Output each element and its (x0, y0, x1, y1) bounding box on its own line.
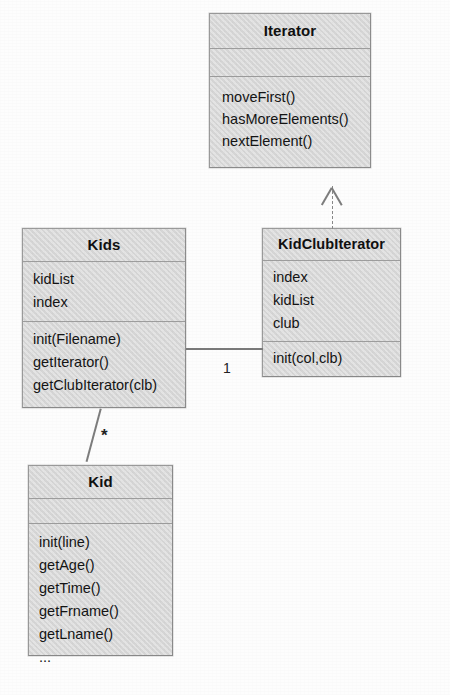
class-box-kid[interactable]: Kid init(line) getAge() getTime() getFrn… (28, 465, 173, 656)
attribute-item: kidList (273, 289, 400, 312)
class-box-kidclubiterator[interactable]: KidClubIterator index kidList club init(… (262, 228, 401, 377)
operation-item: getTime() (39, 577, 172, 600)
operation-item: getIterator() (33, 351, 185, 374)
uml-class-diagram-canvas: Iterator moveFirst() hasMoreElements() n… (0, 0, 450, 695)
operations-compartment-kidclubiterator: init(col,clb) (263, 341, 400, 370)
operation-item: getFrname() (39, 600, 172, 623)
multiplicity-label-many: * (101, 427, 108, 444)
attribute-item: index (273, 266, 400, 289)
class-name-kids: Kids (23, 229, 185, 261)
class-box-iterator[interactable]: Iterator moveFirst() hasMoreElements() n… (209, 13, 371, 168)
operation-item: moveFirst() (222, 86, 370, 108)
operation-item: init(Filename) (33, 328, 185, 351)
class-name-iterator: Iterator (210, 14, 370, 48)
attribute-item: index (33, 291, 185, 314)
operations-compartment-iterator: moveFirst() hasMoreElements() nextElemen… (210, 76, 370, 152)
operation-item: init(col,clb) (273, 347, 400, 370)
operations-compartment-kids: init(Filename) getIterator() getClubIter… (23, 321, 185, 397)
multiplicity-label-one: 1 (223, 361, 231, 375)
attributes-compartment-kid (29, 498, 172, 523)
operation-item: hasMoreElements() (222, 108, 370, 130)
operation-item: nextElement() (222, 130, 370, 152)
operation-item: ... (39, 646, 172, 669)
attribute-item: kidList (33, 268, 185, 291)
operation-item: getAge() (39, 554, 172, 577)
association-edge-kids-kidclubiterator (186, 348, 263, 350)
attributes-compartment-iterator (210, 48, 370, 76)
attribute-item: club (273, 312, 400, 335)
attributes-compartment-kids: kidList index (23, 261, 185, 321)
operations-compartment-kid: init(line) getAge() getTime() getFrname(… (29, 523, 172, 669)
class-name-kid: Kid (29, 466, 172, 498)
association-edge-kids-kid (86, 409, 102, 463)
class-box-kids[interactable]: Kids kidList index init(Filename) getIte… (22, 228, 186, 408)
operation-item: getClubIterator(clb) (33, 374, 185, 397)
class-name-kidclubiterator: KidClubIterator (263, 229, 400, 260)
operation-item: getLname() (39, 623, 172, 646)
operation-item: init(line) (39, 531, 172, 554)
attributes-compartment-kidclubiterator: index kidList club (263, 260, 400, 341)
